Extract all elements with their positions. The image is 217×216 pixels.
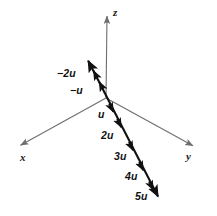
label-4u: 4u xyxy=(125,171,138,182)
axis-label-z: z xyxy=(113,7,117,18)
axis-label-y: y xyxy=(186,151,191,162)
z-axis-line xyxy=(106,16,107,98)
label-5u: 5u xyxy=(135,191,148,202)
label-neg-u: −u xyxy=(70,85,83,96)
coordinate-system-svg xyxy=(0,0,217,216)
axis-label-x: x xyxy=(20,152,26,163)
vector-u-line xyxy=(88,61,158,197)
label-3u: 3u xyxy=(114,151,127,162)
vector-diagram-figure: x y z −2u −u u 2u 3u 4u 5u xyxy=(0,0,217,216)
label-2u: 2u xyxy=(101,130,114,141)
label-neg-2u: −2u xyxy=(57,68,76,79)
label-u: u xyxy=(98,109,105,120)
x-axis-line xyxy=(21,98,107,145)
